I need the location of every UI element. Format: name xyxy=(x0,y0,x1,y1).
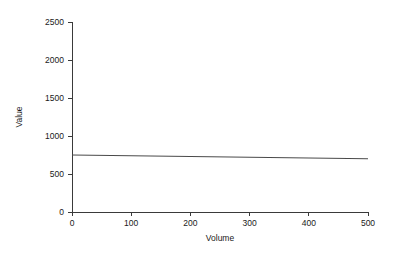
x-tick-label: 300 xyxy=(243,218,257,228)
x-tick-label: 500 xyxy=(361,218,375,228)
x-tick-label: 0 xyxy=(70,218,75,228)
line-chart: 05001000150020002500 0100200300400500 Va… xyxy=(0,0,393,255)
x-tick-label: 400 xyxy=(302,218,316,228)
y-tick-label: 0 xyxy=(59,207,64,217)
chart-container: 05001000150020002500 0100200300400500 Va… xyxy=(0,0,393,255)
y-tick-label: 500 xyxy=(50,169,64,179)
y-tick-label: 2000 xyxy=(45,55,64,65)
y-axis-title: Value xyxy=(14,106,24,127)
x-axis-title: Volume xyxy=(206,233,235,243)
y-tick-label: 2500 xyxy=(45,17,64,27)
x-tick-label: 100 xyxy=(124,218,138,228)
y-tick-label: 1000 xyxy=(45,131,64,141)
x-tick-label: 200 xyxy=(183,218,197,228)
y-tick-label: 1500 xyxy=(45,93,64,103)
